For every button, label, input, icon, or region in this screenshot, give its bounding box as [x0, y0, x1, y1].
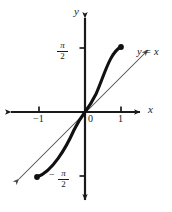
x-tick-label-neg1: −1: [33, 114, 44, 124]
two-denominator: 2: [58, 180, 69, 189]
x-axis-label: x: [148, 104, 153, 115]
identity-line-label: y = x: [137, 47, 159, 58]
minus-sign-neg-pi-over-2: −: [49, 169, 55, 180]
y-tick-label-neg-pi-over-2: π 2: [58, 169, 69, 190]
y-axis: [80, 18, 86, 200]
pi-numerator: π: [57, 41, 68, 50]
x-axis: [11, 107, 140, 113]
pi-numerator: π: [58, 169, 69, 178]
graph-figure: y x 0 −1 1 π 2 − π 2 y = x: [0, 0, 172, 212]
plot-canvas: [0, 0, 172, 212]
x-tick-label-pos1: 1: [118, 114, 123, 124]
two-denominator: 2: [57, 52, 68, 61]
origin-label: 0: [88, 114, 93, 124]
y-tick-label-pi-over-2: π 2: [57, 41, 68, 62]
endpoint-dot-lower: [34, 174, 40, 180]
endpoint-dot-upper: [118, 44, 124, 50]
y-axis-label: y: [74, 6, 79, 17]
